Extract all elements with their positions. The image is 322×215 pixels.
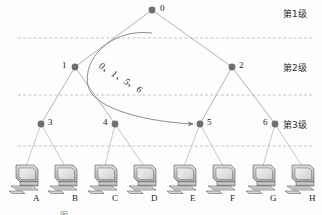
computer-icon-E <box>167 165 196 194</box>
node-3 <box>38 121 45 128</box>
node-label-0: 0 <box>160 3 165 13</box>
figure-caption: 图 <box>60 209 68 215</box>
computer-icon-A <box>9 165 38 194</box>
edge-0-2 <box>152 10 232 67</box>
figure-canvas: 第1级 第2级 第3级 0 1 2 3 4 5 6 0、1、5、6 A B C … <box>0 0 322 215</box>
node-1 <box>72 64 79 71</box>
host-label-H: H <box>309 193 316 203</box>
computer-icon-B <box>48 165 77 194</box>
computer-icon-H <box>285 165 314 194</box>
node-label-5: 5 <box>207 117 212 127</box>
host-link-A <box>26 124 41 166</box>
host-label-G: G <box>270 193 277 203</box>
node-6 <box>272 121 279 128</box>
host-label-B: B <box>72 193 78 203</box>
computer-icon-F <box>206 165 235 194</box>
host-label-A: A <box>33 193 40 203</box>
host-link-B <box>41 124 65 166</box>
host-link-D <box>115 124 144 166</box>
host-computers <box>9 165 314 194</box>
edge-2-5 <box>200 67 232 124</box>
host-links <box>26 124 302 166</box>
host-label-C: C <box>112 193 118 203</box>
computer-icon-D <box>127 165 156 194</box>
node-label-6: 6 <box>263 117 268 127</box>
computer-icon-C <box>88 165 117 194</box>
level-label-1: 第1级 <box>283 7 307 20</box>
host-link-C <box>105 124 115 166</box>
host-label-F: F <box>230 193 235 203</box>
level-label-3: 第3级 <box>283 118 307 131</box>
node-label-3: 3 <box>48 117 53 127</box>
edge-2-6 <box>232 67 275 124</box>
edge-0-1 <box>75 10 152 67</box>
node-label-2: 2 <box>239 60 244 70</box>
level-label-2: 第2级 <box>283 61 307 74</box>
node-4 <box>112 121 119 128</box>
edge-1-3 <box>41 67 75 124</box>
node-0 <box>149 7 156 14</box>
node-2 <box>229 64 236 71</box>
host-link-E <box>184 124 200 166</box>
host-label-E: E <box>190 193 196 203</box>
host-link-F <box>200 124 223 166</box>
node-label-4: 4 <box>103 117 108 127</box>
level-separators <box>18 38 314 146</box>
diagram-svg <box>0 0 322 215</box>
host-label-D: D <box>151 193 158 203</box>
host-link-G <box>263 124 275 166</box>
computer-icon-G <box>246 165 275 194</box>
node-5 <box>197 121 204 128</box>
node-label-1: 1 <box>62 60 67 70</box>
